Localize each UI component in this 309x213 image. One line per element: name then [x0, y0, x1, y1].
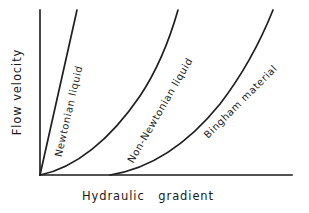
y-axis-label: Flow velocity — [10, 49, 24, 136]
curve-label-non-newtonian-liquid: Non-Newtonian liquid — [125, 56, 194, 165]
chart-canvas: Flow velocity Hydraulic gradient Newtoni… — [0, 0, 309, 213]
curve-labels-group: Newtonian liquid Non-Newtonian liquid Bi… — [53, 56, 280, 165]
chart-figure: Flow velocity Hydraulic gradient Newtoni… — [0, 0, 309, 213]
x-axis-label: Hydraulic gradient — [82, 189, 214, 203]
curve-label-newtonian-liquid: Newtonian liquid — [53, 64, 85, 158]
